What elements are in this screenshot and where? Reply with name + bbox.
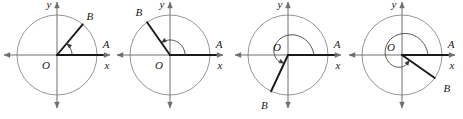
x-axis-arrowhead-negative [117, 53, 123, 58]
y-axis-arrowhead-negative [168, 102, 173, 108]
x-axis-arrowhead-negative [349, 53, 355, 58]
x-axis-arrowhead-negative [4, 53, 10, 58]
x-axis-arrowhead-positive [449, 53, 455, 58]
angle-sweep-arrowhead [161, 38, 166, 43]
y-axis-arrowhead-positive [168, 2, 173, 8]
point-b-label: B [135, 6, 142, 18]
y-axis-arrowhead-positive [55, 2, 60, 8]
y-axis-arrowhead-negative [400, 102, 405, 108]
y-axis-label: y [391, 0, 397, 10]
point-b-label: B [261, 99, 268, 111]
y-axis-label: y [277, 0, 283, 10]
x-axis-arrowhead-positive [335, 53, 341, 58]
angle-sweep-arrowhead [405, 60, 410, 65]
x-axis-arrowhead-negative [235, 53, 241, 58]
angle-figure-3: OyxAB [231, 0, 347, 119]
angle-diagram-set: OyxABOyxABOyxABOyxAB [0, 0, 463, 119]
angle-figure-canvas-4: OyxAB [345, 0, 461, 119]
origin-label: O [273, 41, 281, 53]
x-axis-label: x [217, 59, 223, 71]
point-a-label: A [333, 38, 341, 50]
angle-figure-canvas-1: OyxAB [0, 0, 116, 119]
origin-label: O [42, 59, 50, 71]
y-axis-label: y [46, 0, 52, 10]
angle-sweep-arrowhead [67, 44, 72, 49]
origin-label: O [387, 41, 395, 53]
y-axis-arrowhead-negative [286, 102, 291, 108]
angle-sweep-arrowhead [279, 59, 284, 63]
origin-label: O [155, 59, 163, 71]
point-a-label: A [102, 38, 110, 50]
angle-figure-canvas-2: OyxAB [113, 0, 229, 119]
y-axis-arrowhead-positive [286, 2, 291, 8]
y-axis-label: y [159, 0, 165, 10]
x-axis-label: x [449, 59, 455, 71]
point-a-label: A [447, 38, 455, 50]
angle-figure-canvas-3: OyxAB [231, 0, 347, 119]
terminal-side-ob [147, 22, 170, 55]
point-b-label: B [86, 10, 93, 22]
x-axis-arrowhead-positive [104, 53, 110, 58]
x-axis-label: x [104, 59, 110, 71]
x-axis-arrowhead-positive [217, 53, 223, 58]
point-a-label: A [215, 38, 223, 50]
point-b-label: B [443, 82, 450, 94]
y-axis-arrowhead-negative [55, 102, 60, 108]
angle-figure-4: OyxAB [345, 0, 461, 119]
x-axis-label: x [335, 59, 341, 71]
angle-figure-1: OyxAB [0, 0, 116, 119]
y-axis-arrowhead-positive [400, 2, 405, 8]
angle-figure-2: OyxAB [113, 0, 229, 119]
terminal-side-ob [57, 24, 83, 55]
terminal-side-ob [402, 55, 435, 78]
terminal-side-ob [271, 55, 288, 91]
